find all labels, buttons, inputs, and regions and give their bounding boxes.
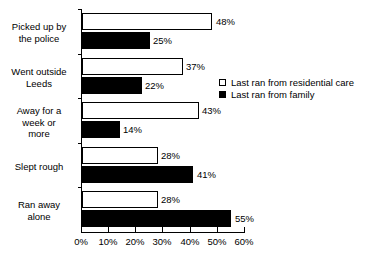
x-axis-line bbox=[81, 232, 245, 233]
x-axis-tick-label: 30% bbox=[149, 236, 175, 247]
category-label-line: the police bbox=[19, 33, 60, 44]
category-axis-labels: Picked up by the police Went outside Lee… bbox=[0, 9, 78, 232]
bar-value-family-ran-away-alone: 55% bbox=[235, 214, 254, 224]
x-axis-tick-label: 60% bbox=[231, 236, 257, 247]
legend-item-residential-care: Last ran from residential care bbox=[219, 76, 354, 88]
x-axis-tick bbox=[108, 227, 109, 232]
bar-residential-picked-up-by-the-police bbox=[82, 13, 212, 30]
x-axis-tick bbox=[244, 227, 245, 232]
legend: Last ran from residential care Last ran … bbox=[219, 76, 375, 102]
x-axis-tick-label: 50% bbox=[204, 236, 230, 247]
category-label-line: week or bbox=[22, 117, 55, 128]
x-axis-tick bbox=[81, 227, 82, 232]
x-axis-tick-label: 0% bbox=[68, 236, 94, 247]
category-label-line: more bbox=[28, 128, 50, 139]
category-label-slept-rough: Slept rough bbox=[0, 161, 78, 173]
category-label-went-outside-leeds: Went outside Leeds bbox=[0, 66, 78, 89]
bar-family-ran-away-alone bbox=[82, 210, 231, 227]
category-label-picked-up-by-the-police: Picked up by the police bbox=[0, 21, 78, 44]
category-label-ran-away-alone: Ran away alone bbox=[0, 199, 78, 222]
bar-family-went-outside-leeds bbox=[82, 77, 142, 94]
legend-label: Last ran from residential care bbox=[231, 77, 354, 88]
x-axis-tick bbox=[217, 227, 218, 232]
y-axis-tick bbox=[78, 98, 82, 99]
bar-value-family-picked-up-by-the-police: 25% bbox=[153, 36, 172, 46]
bar-value-residential-slept-rough: 28% bbox=[161, 151, 180, 161]
legend-swatch-icon bbox=[219, 79, 226, 86]
plot-area: 48% 25% 37% 22% 43% 14% 28% 41% 28% 55% bbox=[82, 9, 245, 232]
bar-residential-slept-rough bbox=[82, 147, 158, 164]
bar-family-slept-rough bbox=[82, 166, 193, 183]
bar-chart: Picked up by the police Went outside Lee… bbox=[0, 0, 379, 271]
x-axis-tick bbox=[162, 227, 163, 232]
x-axis-tick-label: 10% bbox=[95, 236, 121, 247]
legend-item-family: Last ran from family bbox=[219, 88, 314, 100]
legend-swatch-icon bbox=[219, 91, 226, 98]
category-label-line: Leeds bbox=[26, 78, 52, 89]
bar-value-residential-ran-away-alone: 28% bbox=[161, 195, 180, 205]
category-label-line: alone bbox=[27, 211, 50, 222]
y-axis-tick bbox=[78, 187, 82, 188]
bar-value-family-slept-rough: 41% bbox=[197, 170, 216, 180]
category-label-away-for-a-week-or-more: Away for a week or more bbox=[0, 105, 78, 140]
y-axis-tick bbox=[78, 54, 82, 55]
category-label-line: Away for a bbox=[17, 105, 62, 116]
x-axis-tick bbox=[190, 227, 191, 232]
category-label-line: Ran away bbox=[18, 199, 60, 210]
y-axis-tick bbox=[78, 143, 82, 144]
bar-family-away-for-a-week-or-more bbox=[82, 121, 120, 138]
bar-value-residential-went-outside-leeds: 37% bbox=[186, 62, 205, 72]
x-axis-tick-label: 20% bbox=[122, 236, 148, 247]
legend-label: Last ran from family bbox=[231, 89, 314, 100]
bar-value-family-away-for-a-week-or-more: 14% bbox=[123, 125, 142, 135]
bar-residential-went-outside-leeds bbox=[82, 58, 183, 75]
x-axis-tick-labels: 0% 10% 20% 30% 40% 50% 60% bbox=[82, 236, 252, 250]
bar-residential-ran-away-alone bbox=[82, 191, 158, 208]
bar-family-picked-up-by-the-police bbox=[82, 32, 150, 49]
x-axis-tick-label: 40% bbox=[177, 236, 203, 247]
bar-value-residential-away-for-a-week-or-more: 43% bbox=[202, 106, 221, 116]
bar-residential-away-for-a-week-or-more bbox=[82, 102, 199, 119]
x-axis-tick bbox=[135, 227, 136, 232]
category-label-line: Slept rough bbox=[15, 161, 64, 172]
y-axis-tick bbox=[78, 9, 82, 10]
category-label-line: Went outside bbox=[11, 66, 66, 77]
bar-value-family-went-outside-leeds: 22% bbox=[145, 81, 164, 91]
category-label-line: Picked up by bbox=[12, 21, 66, 32]
bar-value-residential-picked-up-by-the-police: 48% bbox=[216, 17, 235, 27]
